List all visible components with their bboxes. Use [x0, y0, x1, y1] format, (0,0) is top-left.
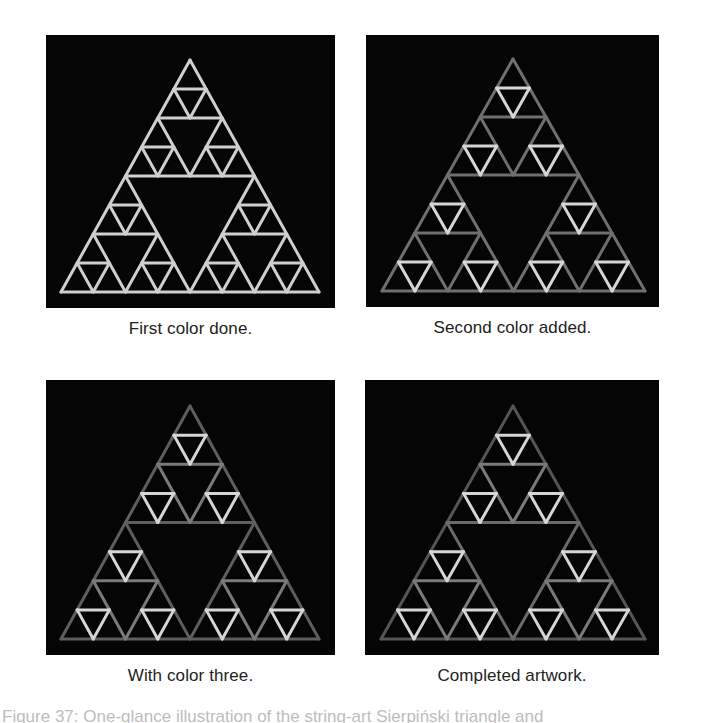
string-segment — [142, 610, 158, 639]
sierpinski-panel-first-color — [46, 35, 335, 308]
string-segment — [480, 493, 497, 522]
string-segment — [222, 610, 238, 639]
panel-caption-third-color: With color three. — [41, 666, 341, 686]
string-segment — [563, 204, 580, 233]
string-segment — [513, 435, 530, 464]
string-segment — [158, 610, 174, 639]
string-segment — [497, 88, 514, 117]
string-segment — [497, 435, 514, 464]
string-segment — [109, 205, 125, 234]
panel-caption-completed: Completed artwork. — [362, 666, 662, 686]
sierpinski-triangle-image — [46, 35, 335, 308]
string-segment — [480, 610, 497, 639]
string-segment — [612, 610, 629, 639]
string-segment — [77, 610, 93, 639]
string-segment — [596, 262, 613, 291]
string-segment — [612, 262, 628, 291]
panel-caption-second-color: Second color added. — [363, 318, 663, 338]
string-segment — [414, 610, 431, 639]
string-segment — [448, 204, 464, 233]
string-segment — [431, 204, 448, 233]
string-segment — [398, 262, 415, 291]
string-segment — [142, 147, 158, 176]
string-segment — [255, 205, 271, 234]
string-segment — [206, 493, 222, 522]
string-segment — [464, 146, 481, 175]
string-segment — [158, 493, 174, 522]
sierpinski-panel-second-color — [366, 35, 659, 307]
string-segment — [222, 147, 238, 176]
string-segment — [222, 263, 238, 292]
string-segment — [174, 89, 190, 118]
string-segment — [480, 146, 496, 175]
panel-caption-first-color: First color done. — [41, 319, 341, 339]
string-segment — [142, 493, 158, 522]
string-segment — [206, 263, 222, 292]
string-segment — [447, 552, 464, 581]
string-segment — [464, 493, 481, 522]
string-segment — [158, 147, 174, 176]
string-segment — [546, 493, 563, 522]
sierpinski-triangle-image — [365, 380, 659, 655]
string-segment — [546, 146, 562, 175]
string-segment — [238, 205, 254, 234]
string-segment — [142, 263, 158, 292]
string-segment — [579, 552, 596, 581]
sierpinski-panel-third-color — [46, 380, 335, 655]
string-segment — [530, 146, 547, 175]
string-segment — [287, 610, 303, 639]
string-segment — [546, 262, 562, 291]
string-segment — [546, 610, 563, 639]
string-segment — [93, 263, 109, 292]
string-segment — [158, 263, 174, 292]
string-segment — [238, 552, 254, 581]
string-segment — [206, 610, 222, 639]
string-segment — [126, 205, 142, 234]
sierpinski-panel-completed — [365, 380, 659, 655]
string-segment — [271, 610, 287, 639]
string-segment — [530, 262, 547, 291]
string-segment — [398, 610, 415, 639]
string-segment — [206, 147, 222, 176]
string-segment — [579, 204, 595, 233]
string-segment — [287, 263, 303, 292]
string-segment — [271, 263, 287, 292]
string-segment — [431, 552, 448, 581]
string-segment — [530, 610, 547, 639]
string-segment — [109, 552, 125, 581]
string-segment — [126, 552, 142, 581]
string-segment — [222, 493, 238, 522]
string-segment — [174, 435, 190, 464]
string-segment — [464, 610, 481, 639]
sierpinski-triangle-image — [46, 380, 335, 655]
string-segment — [190, 89, 206, 118]
string-segment — [255, 552, 271, 581]
string-segment — [190, 435, 206, 464]
string-segment — [77, 263, 93, 292]
string-segment — [481, 262, 497, 291]
string-segment — [563, 552, 580, 581]
string-segment — [530, 493, 547, 522]
string-segment — [415, 262, 431, 291]
string-segment — [93, 610, 109, 639]
string-segment — [513, 88, 529, 117]
string-segment — [464, 262, 481, 291]
sierpinski-triangle-image — [366, 35, 659, 307]
string-segment — [596, 610, 613, 639]
figure-caption: Figure 37: One-glance illustration of th… — [0, 707, 701, 723]
